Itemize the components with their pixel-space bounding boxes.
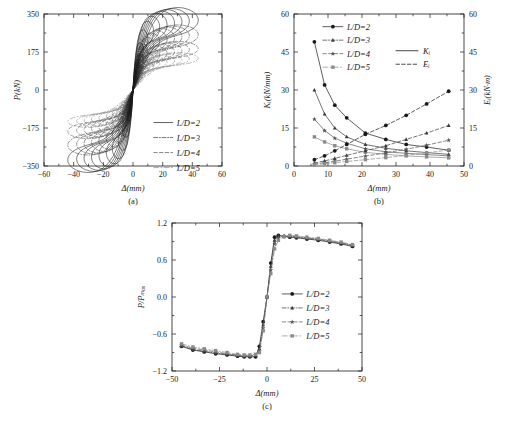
axis-text: 10 [324, 170, 332, 179]
data-marker [262, 329, 265, 332]
data-marker [447, 148, 450, 151]
data-marker [384, 138, 388, 142]
data-marker [313, 40, 317, 44]
data-marker [345, 135, 349, 139]
data-marker [254, 353, 257, 356]
legend-label-ld4: L/D=4 [346, 49, 371, 59]
subplot-c-canvas: −50−2502550−1.2−0.60.00.61.2Δ(mm)P/PₘₐₓL… [120, 205, 400, 433]
axis-text: 0.0 [157, 293, 167, 302]
subplot-c: −50−2502550−1.2−0.60.00.61.2Δ(mm)P/PₘₐₓL… [120, 205, 400, 433]
y-axis-label: P/Pₘₐₓ [136, 285, 146, 309]
data-marker [333, 103, 337, 107]
axis-text: 0.6 [157, 256, 167, 265]
legend-label-ld4: L/D=4 [305, 317, 330, 327]
axis-text: 30 [281, 86, 289, 95]
subplot-caption-c: (c) [262, 401, 272, 411]
y-axis-label-right: Eᵢ(kN·m) [482, 75, 492, 106]
axis-text: 0 [469, 162, 473, 171]
axis-text: 60 [218, 170, 226, 179]
axis-text: 0 [292, 170, 296, 179]
axis-text: −40 [67, 170, 80, 179]
legend-label-ld3: L/D=3 [305, 303, 329, 313]
data-marker [345, 160, 348, 163]
data-marker [364, 158, 367, 161]
axis-text: 0 [265, 375, 269, 384]
axis-text: −175 [22, 124, 39, 133]
plot-frame [294, 14, 464, 166]
axis-text: Δ(mm) [255, 388, 279, 398]
legend-label-ld3: L/D=3 [176, 133, 200, 143]
data-marker [333, 161, 336, 164]
data-marker [425, 151, 428, 154]
data-marker [225, 351, 228, 354]
subplot-b: 01020304050015304560015304560Δ(mm)Kᵢ(kN/… [258, 0, 514, 205]
data-marker [277, 239, 280, 242]
axis-text: 20 [159, 170, 167, 179]
legend-label-ld2: L/D=2 [305, 289, 330, 299]
legend-label-ld2: L/D=2 [176, 118, 201, 128]
axis-text: 30 [469, 86, 477, 95]
axis-text: −50 [166, 375, 179, 384]
data-marker [425, 155, 428, 158]
data-marker [323, 162, 326, 165]
data-marker [191, 345, 194, 348]
axis-text: 0 [285, 162, 289, 171]
data-marker [291, 334, 294, 337]
axis-text: 50 [358, 375, 366, 384]
data-marker [305, 235, 308, 238]
axis-text: 0 [131, 170, 135, 179]
data-marker [269, 272, 272, 275]
axis-text: −1.2 [152, 367, 167, 376]
data-marker [405, 154, 408, 157]
axis-text: −350 [22, 162, 39, 171]
data-marker [333, 149, 337, 153]
data-marker [384, 156, 387, 159]
legend-label-ld4: L/D=4 [176, 148, 201, 158]
data-marker [313, 88, 317, 92]
data-marker [317, 237, 320, 240]
data-marker [265, 295, 268, 298]
data-marker [447, 156, 450, 159]
data-marker [364, 132, 368, 136]
axis-text: −0.6 [152, 330, 167, 339]
data-marker [331, 25, 335, 29]
axis-text: 25 [311, 375, 319, 384]
axis-text: 40 [426, 170, 434, 179]
axis-text: 45 [281, 48, 289, 57]
data-marker [404, 137, 408, 141]
axis-text: 175 [27, 48, 39, 57]
data-marker [236, 353, 239, 356]
y-axis-label: P(kN) [12, 80, 22, 101]
data-marker [447, 123, 451, 127]
axis-text: 30 [392, 170, 400, 179]
legend-label-ld2: L/D=2 [346, 22, 371, 32]
data-marker [290, 292, 294, 296]
subplot-a-canvas: −60−40−200204060−350−1750175350Δ(mm)P(kN… [0, 0, 255, 205]
legend-label-ld3: L/D=3 [346, 35, 370, 45]
data-marker [295, 234, 298, 237]
axis-text: 60 [469, 10, 477, 19]
axis-text: 15 [469, 124, 477, 133]
axis-text: 45 [469, 48, 477, 57]
data-marker [345, 143, 349, 147]
data-marker [331, 65, 334, 68]
data-marker [333, 136, 338, 140]
data-marker [404, 113, 408, 117]
legend-label-ld5: L/D=5 [176, 163, 200, 173]
data-marker [323, 83, 327, 87]
axis-text: −60 [38, 170, 51, 179]
data-marker [425, 102, 429, 106]
data-marker [384, 124, 388, 128]
data-marker [339, 240, 342, 243]
axis-text: −25 [213, 375, 226, 384]
legend-label-ld5: L/D=5 [346, 62, 370, 72]
axis-text: 50 [460, 170, 468, 179]
data-marker [404, 143, 408, 147]
data-marker [447, 89, 451, 93]
legend-style-0: Kᵢ [422, 46, 430, 56]
axis-text: 1.2 [157, 219, 167, 228]
data-marker [288, 234, 291, 237]
data-marker [180, 342, 183, 345]
subplot-a: −60−40−200204060−350−1750175350Δ(mm)P(kN… [0, 0, 255, 205]
data-marker [323, 140, 326, 143]
